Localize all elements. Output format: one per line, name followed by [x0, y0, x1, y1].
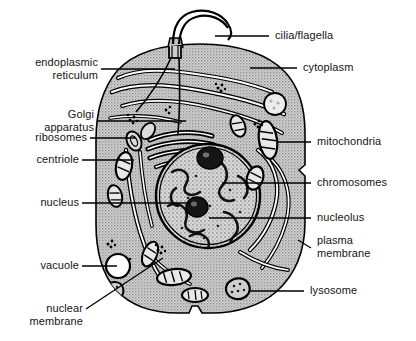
cytoplasm-vesicle — [264, 93, 286, 115]
label-cytoplasm: cytoplasm — [303, 61, 416, 74]
label-nucleus: nucleus — [0, 196, 79, 209]
chromosome-cluster — [197, 147, 223, 169]
label-endoplasmic-reticulum: endoplasmic reticulum — [0, 56, 98, 81]
label-mitochondria: mitochondria — [317, 135, 416, 148]
label-ribosomes: ribosomes — [0, 131, 87, 144]
nucleus — [156, 144, 260, 248]
label-cilia-flagella: cilia/flagella — [275, 29, 415, 42]
label-plasma-membrane: plasma membrane — [317, 234, 416, 259]
nucleolus — [186, 197, 208, 217]
label-golgi-apparatus: Golgi apparatus — [0, 108, 94, 133]
label-centriole: centriole — [0, 153, 79, 166]
label-nucleolus: nucleolus — [317, 211, 416, 224]
label-chromosomes: chromosomes — [317, 176, 416, 189]
label-lysosome: lysosome — [310, 284, 416, 297]
label-vacuole: vacuole — [0, 259, 79, 272]
label-nuclear-membrane: nuclear membrane — [0, 302, 83, 327]
